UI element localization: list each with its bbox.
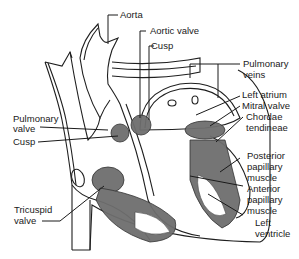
label-pulmonary-valve-2: valve [13, 124, 35, 135]
label-aorta: Aorta [120, 10, 143, 21]
label-anterior-1: Anterior [247, 184, 280, 195]
label-anterior-2: papillary [247, 195, 282, 206]
label-chordae-1: Chordae [246, 112, 282, 123]
label-tricuspid-1: Tricuspid [14, 205, 52, 216]
pulmonary-valve-shape [111, 124, 129, 142]
mitral-valve-shape [185, 121, 225, 139]
label-aortic-valve: Aortic valve [150, 26, 199, 37]
label-pulmonary-veins-2: veins [243, 70, 265, 81]
label-posterior-3: muscle [247, 173, 277, 184]
aortic-valve-shape [131, 115, 151, 135]
label-tricuspid-2: valve [14, 216, 36, 227]
label-left-ventricle-1: Left [255, 218, 271, 229]
label-chordae-2: tendineae [246, 123, 288, 134]
label-pulmonary-veins-1: Pulmonary [243, 59, 288, 70]
label-cusp-left: Cusp [13, 137, 35, 148]
label-cusp-top: Cusp [151, 41, 173, 52]
label-posterior-1: Posterior [247, 151, 285, 162]
label-posterior-2: papillary [247, 162, 282, 173]
label-left-atrium: Left atrium [242, 90, 287, 101]
label-mitral-valve: Mitral valve [242, 101, 290, 112]
label-anterior-3: muscle [247, 206, 277, 217]
heart-diagram: Aorta Aortic valve Cusp Pulmonary veins … [0, 0, 299, 259]
label-left-ventricle-2: ventricle [255, 229, 290, 240]
